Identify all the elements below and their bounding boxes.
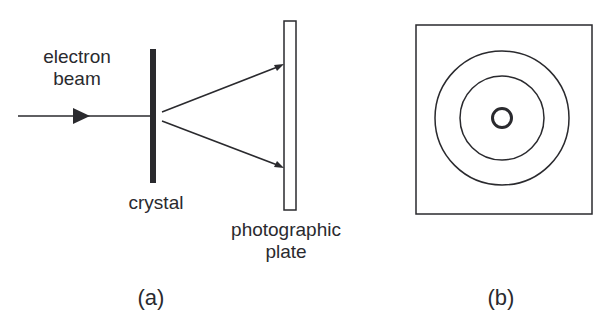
diffracted-ray-upper xyxy=(162,66,280,112)
caption-a: (a) xyxy=(126,285,176,311)
ray-arrowhead-lower-icon xyxy=(274,161,284,168)
caption-b: (b) xyxy=(476,285,526,311)
panel-b xyxy=(416,25,592,214)
beam-arrow-icon xyxy=(73,108,90,124)
plate-label-line2: plate xyxy=(228,241,344,263)
diffracted-ray-lower xyxy=(162,121,280,166)
photographic-plate xyxy=(284,21,296,210)
crystal-bar xyxy=(150,49,156,183)
electron-beam-label-line2: beam xyxy=(36,68,118,90)
central-spot-ring xyxy=(493,109,512,128)
plate-label-line1: photographic xyxy=(228,219,344,241)
crystal-label: crystal xyxy=(118,192,194,214)
electron-beam-label-line1: electron xyxy=(36,46,118,68)
ray-arrowhead-upper-icon xyxy=(274,64,284,71)
photographic-plate-label: photographic plate xyxy=(228,219,344,263)
electron-beam-label: electron beam xyxy=(36,46,118,90)
outer-ring xyxy=(435,51,569,185)
middle-ring xyxy=(460,76,544,160)
